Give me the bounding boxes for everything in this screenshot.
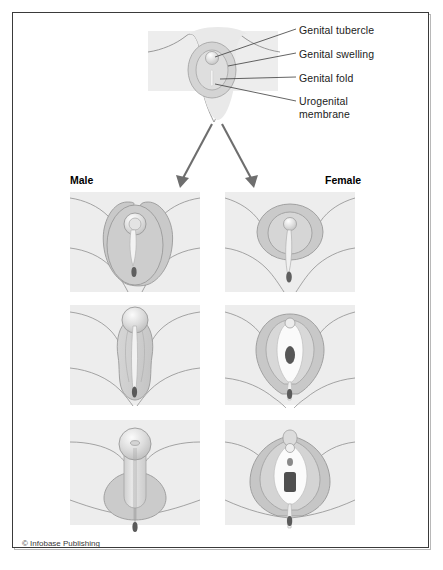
copyright-notice: © Infobase Publishing bbox=[22, 539, 100, 548]
label-urogenital-membrane: Urogenital membrane bbox=[299, 95, 379, 120]
panel-male-stage-3 bbox=[70, 420, 200, 532]
column-header-female: Female bbox=[325, 174, 361, 186]
urethral-meatus-male-3 bbox=[131, 441, 140, 446]
panel-female-stage-3 bbox=[225, 420, 355, 528]
panel-indifferent-stage bbox=[148, 27, 296, 122]
anal-opening-female-3 bbox=[287, 516, 292, 526]
arrow-male-head bbox=[176, 175, 189, 188]
differentiation-arrows bbox=[176, 124, 258, 188]
clitoris-female-2 bbox=[285, 318, 295, 328]
figure-root: Genital tubercle Genital swelling Genita… bbox=[0, 0, 443, 570]
anal-opening-male-1 bbox=[131, 267, 136, 277]
label-genital-swelling: Genital swelling bbox=[299, 48, 374, 61]
vaginal-opening-female-3 bbox=[284, 472, 296, 492]
urethral-groove-male-2 bbox=[132, 326, 138, 390]
arrow-male-line bbox=[182, 124, 212, 180]
arrow-female-head bbox=[245, 175, 258, 188]
panel-male-stage-1 bbox=[70, 192, 200, 292]
arrow-female-line bbox=[222, 124, 252, 180]
clitoris-female-3 bbox=[286, 444, 295, 453]
genital-tubercle-shape bbox=[206, 52, 219, 65]
urethral-opening-female-3 bbox=[287, 458, 293, 466]
column-header-male: Male bbox=[70, 174, 93, 186]
vaginal-opening-female-1 bbox=[286, 272, 292, 283]
vaginal-opening-female-2 bbox=[285, 346, 295, 364]
label-genital-tubercle: Genital tubercle bbox=[299, 24, 374, 37]
panel-female-stage-2 bbox=[225, 305, 355, 408]
anal-opening-male-3 bbox=[132, 522, 137, 532]
glans-tip-male-1 bbox=[129, 218, 141, 230]
clitoral-tubercle-female-1 bbox=[284, 218, 297, 231]
urogenital-membrane-shape bbox=[211, 70, 213, 86]
anal-opening-male-2 bbox=[132, 387, 137, 398]
panel-female-stage-1 bbox=[225, 192, 355, 292]
panel-male-stage-2 bbox=[70, 305, 200, 406]
anal-opening-female-2 bbox=[287, 389, 292, 399]
label-genital-fold: Genital fold bbox=[299, 72, 353, 85]
illustration-canvas bbox=[0, 0, 443, 570]
